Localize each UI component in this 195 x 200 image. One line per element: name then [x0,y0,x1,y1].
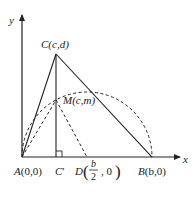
segment-MD-dashed [56,100,87,157]
label-D-frac-den: 2 [91,171,96,182]
segment-AM-dashed [22,100,56,157]
label-D-close-paren: ) [115,162,121,181]
label-B: B(b,0) [138,165,166,178]
x-axis-label: x [182,153,188,165]
label-C-prime: C′ [55,165,65,177]
segment-AC [22,54,56,157]
label-M: M(c,m) [62,94,95,107]
label-D-open-paren: ( [83,162,89,181]
geometry-diagram: y x C(c,d) M(c,m) A(0,0) C′ D ( b 2 , 0 … [0,0,195,200]
right-angle-mark [56,151,62,157]
label-D: D [74,165,83,177]
label-D-frac-num: b [91,158,96,169]
label-D-tail: , 0 [101,165,113,177]
y-axis-label: y [8,14,14,26]
label-A: A(0,0) [13,165,42,178]
label-C: C(c,d) [41,38,69,51]
